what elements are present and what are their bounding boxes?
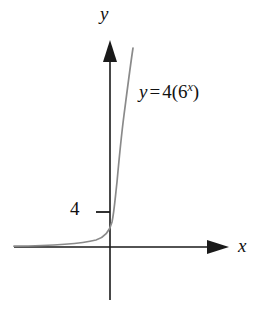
equation-coefficient: 4: [162, 81, 172, 102]
x-axis-arrowhead: [207, 240, 229, 254]
y-intercept-value-label: 4: [70, 199, 80, 218]
y-axis-arrowhead: [103, 40, 117, 62]
equation-equals: =: [147, 81, 162, 102]
curve-equation-label: y=4(6x): [139, 82, 199, 101]
x-axis-label: x: [238, 236, 246, 255]
y-axis-label: y: [100, 4, 108, 23]
graph-canvas: [0, 0, 260, 310]
equation-close-paren: ): [193, 81, 199, 102]
exponential-graph-figure: y x 4 y=4(6x): [0, 0, 260, 310]
